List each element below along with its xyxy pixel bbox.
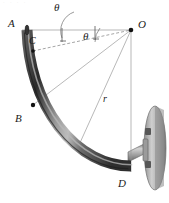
dashed-line-c-o — [33, 30, 131, 51]
label-center-o: O — [138, 18, 146, 30]
label-point-c: C — [29, 35, 36, 46]
point-marker-o — [129, 28, 134, 33]
label-radius: r — [103, 93, 107, 104]
line-o-b — [33, 30, 131, 105]
label-point-a: A — [8, 17, 15, 29]
label-point-d: D — [118, 177, 126, 189]
physics-diagram: · · · · — [0, 0, 169, 203]
point-marker-b — [31, 103, 35, 107]
label-angle-theta-2: θ — [83, 30, 88, 42]
bolt-upper — [145, 128, 151, 135]
angle-arc-1 — [61, 12, 74, 38]
angle-arcs — [61, 12, 100, 42]
angle-ticks — [60, 26, 99, 42]
label-point-b: B — [15, 112, 22, 124]
point-marker-c — [31, 49, 35, 53]
tube-end-cap-a — [25, 25, 29, 35]
bolt-lower — [145, 161, 151, 168]
label-angle-theta-1: θ — [54, 1, 59, 13]
line-o-radius — [79, 30, 131, 145]
